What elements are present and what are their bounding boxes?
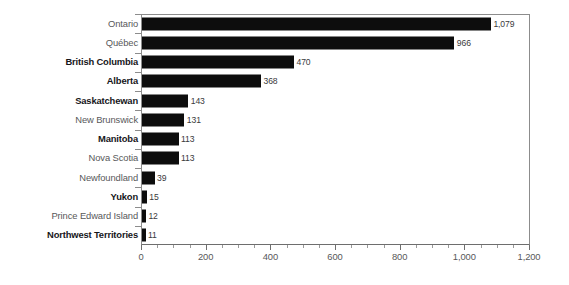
x-axis-minor-tick: [513, 245, 514, 248]
x-axis-minor-tick: [432, 245, 433, 248]
category-label: Alberta: [107, 77, 138, 86]
y-axis-tick: [135, 226, 141, 227]
x-axis-tick-label: 1,000: [453, 252, 476, 261]
table-row: British Columbia470: [0, 53, 569, 72]
x-axis-major-tick: [464, 245, 465, 250]
category-label: Québec: [106, 38, 138, 47]
x-axis-minor-tick: [222, 245, 223, 248]
x-axis-major-tick: [529, 245, 530, 250]
bar: [142, 171, 155, 184]
bar: [142, 190, 147, 203]
y-axis-tick: [135, 207, 141, 208]
table-row: Alberta368: [0, 72, 569, 91]
bar-value-label: 966: [457, 39, 471, 48]
bar: [142, 133, 179, 146]
x-axis-tick-label: 400: [263, 252, 278, 261]
x-axis-minor-tick: [384, 245, 385, 248]
y-axis-tick: [135, 33, 141, 34]
category-label: Newfoundland: [79, 173, 138, 182]
table-row: New Brunswick131: [0, 110, 569, 129]
bar-value-label: 15: [149, 193, 158, 202]
x-axis-minor-tick: [497, 245, 498, 248]
bar-value-label: 470: [296, 58, 310, 67]
y-axis-tick: [135, 53, 141, 54]
x-axis-minor-tick: [351, 245, 352, 248]
bar: [142, 210, 146, 223]
x-axis-minor-tick: [416, 245, 417, 248]
x-axis-tick-label: 1,200: [518, 252, 541, 261]
y-axis-tick: [135, 130, 141, 131]
x-axis-major-tick: [206, 245, 207, 250]
category-label: Nova Scotia: [89, 154, 138, 163]
category-label: British Columbia: [65, 57, 138, 66]
x-axis-major-tick: [270, 245, 271, 250]
bar: [142, 94, 188, 107]
bar-value-label: 143: [191, 96, 205, 105]
bar-value-label: 11: [148, 231, 157, 240]
category-label: Saskatchewan: [75, 96, 138, 105]
x-axis-tick-label: 0: [138, 252, 143, 261]
table-row: Prince Edward Island12: [0, 207, 569, 226]
x-axis-minor-tick: [481, 245, 482, 248]
bar-value-label: 368: [263, 77, 277, 86]
x-axis-tick-label: 200: [198, 252, 213, 261]
table-row: Saskatchewan143: [0, 91, 569, 110]
y-axis-tick: [135, 72, 141, 73]
table-row: Nova Scotia113: [0, 149, 569, 168]
x-axis-major-tick: [335, 245, 336, 250]
x-axis-minor-tick: [157, 245, 158, 248]
bar-chart: Ontario1,079Québec966British Columbia470…: [0, 0, 569, 285]
x-axis-minor-tick: [367, 245, 368, 248]
y-axis-tick: [135, 149, 141, 150]
x-axis-major-tick: [400, 245, 401, 250]
bar-value-label: 12: [148, 212, 157, 221]
x-axis: 02004006008001,0001,200: [141, 245, 530, 285]
y-axis-tick: [135, 14, 141, 15]
category-label: Prince Edward Island: [51, 211, 138, 220]
x-axis-minor-tick: [190, 245, 191, 248]
x-axis-tick-label: 800: [392, 252, 407, 261]
table-row: Newfoundland39: [0, 168, 569, 187]
bar: [142, 152, 179, 165]
y-axis-tick: [135, 168, 141, 169]
bar-value-label: 39: [157, 173, 166, 182]
bar: [142, 56, 294, 69]
bar-value-label: 113: [181, 135, 194, 144]
category-label: Manitoba: [98, 134, 138, 143]
y-axis-tick: [135, 187, 141, 188]
table-row: Yukon15: [0, 187, 569, 206]
bar: [142, 17, 491, 30]
bar-value-label: 113: [181, 154, 194, 163]
bar: [142, 75, 261, 88]
category-label: Yukon: [111, 192, 138, 201]
bar-value-label: 131: [187, 116, 201, 125]
x-axis-minor-tick: [173, 245, 174, 248]
x-axis-minor-tick: [303, 245, 304, 248]
x-axis-major-tick: [141, 245, 142, 250]
x-axis-minor-tick: [287, 245, 288, 248]
bar: [142, 113, 184, 126]
category-label: New Brunswick: [75, 115, 138, 124]
x-axis-minor-tick: [238, 245, 239, 248]
bar-value-label: 1,079: [493, 19, 514, 28]
x-axis-minor-tick: [254, 245, 255, 248]
bar: [142, 229, 146, 242]
bar: [142, 36, 454, 49]
category-label: Northwest Territories: [47, 231, 138, 240]
x-axis-minor-tick: [319, 245, 320, 248]
table-row: Ontario1,079: [0, 14, 569, 33]
table-row: Manitoba113: [0, 130, 569, 149]
x-axis-tick-label: 600: [327, 252, 342, 261]
category-label: Ontario: [108, 19, 138, 28]
table-row: Northwest Territories11: [0, 226, 569, 245]
y-axis-tick: [135, 110, 141, 111]
y-axis-tick: [135, 91, 141, 92]
x-axis-minor-tick: [448, 245, 449, 248]
table-row: Québec966: [0, 33, 569, 52]
